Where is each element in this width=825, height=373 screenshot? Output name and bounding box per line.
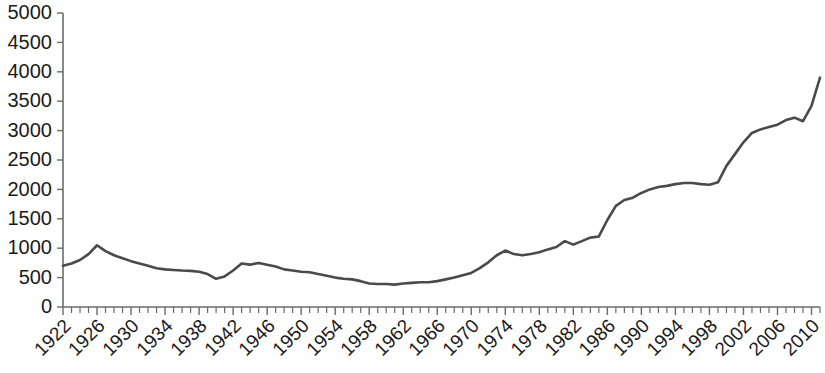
y-tick-label: 5000: [8, 1, 53, 23]
x-tick-label: 1958: [336, 315, 381, 360]
x-tick-label: 1938: [166, 315, 211, 360]
y-tick-label: 4000: [8, 60, 53, 82]
x-tick-label: 1922: [30, 315, 75, 360]
x-tick-label: 1942: [200, 315, 245, 360]
x-tick-label: 1926: [64, 315, 109, 360]
y-tick-label: 2500: [8, 148, 53, 170]
y-tick-label: 1500: [8, 207, 53, 229]
x-axis-tick-marks: [63, 307, 820, 315]
line-chart: 0500100015002000250030003500400045005000…: [0, 0, 825, 373]
x-tick-label: 1994: [642, 315, 687, 360]
x-tick-label: 1986: [574, 315, 619, 360]
y-tick-label: 500: [19, 266, 52, 288]
x-tick-label: 1974: [472, 315, 517, 360]
x-tick-label: 2010: [779, 315, 824, 360]
x-tick-label: 1978: [506, 315, 551, 360]
x-tick-label: 1982: [540, 315, 585, 360]
data-series-group: [63, 78, 820, 285]
y-tick-label: 0: [41, 295, 52, 317]
x-tick-label: 1970: [438, 315, 483, 360]
x-tick-label: 1930: [98, 315, 143, 360]
y-tick-label: 2000: [8, 178, 53, 200]
y-tick-label: 3500: [8, 89, 53, 111]
y-tick-label: 3000: [8, 119, 53, 141]
chart-canvas: 0500100015002000250030003500400045005000…: [0, 0, 825, 373]
x-tick-label: 1954: [302, 315, 347, 360]
y-axis-tick-labels: 0500100015002000250030003500400045005000: [8, 1, 53, 317]
y-tick-label: 1000: [8, 236, 53, 258]
x-tick-label: 1950: [268, 315, 313, 360]
x-axis: [63, 307, 820, 315]
x-tick-label: 2006: [745, 315, 790, 360]
x-tick-label: 2002: [711, 315, 756, 360]
x-tick-label: 1998: [677, 315, 722, 360]
y-tick-label: 4500: [8, 31, 53, 53]
x-tick-label: 1990: [608, 315, 653, 360]
y-axis-tick-marks: [57, 13, 63, 307]
x-tick-label: 1966: [404, 315, 449, 360]
x-tick-label: 1946: [234, 315, 279, 360]
x-tick-label: 1934: [132, 315, 177, 360]
x-tick-label: 1962: [370, 315, 415, 360]
x-axis-tick-labels: 1922192619301934193819421946195019541958…: [30, 315, 823, 360]
data-series-line: [63, 78, 820, 285]
y-axis: [57, 13, 63, 307]
